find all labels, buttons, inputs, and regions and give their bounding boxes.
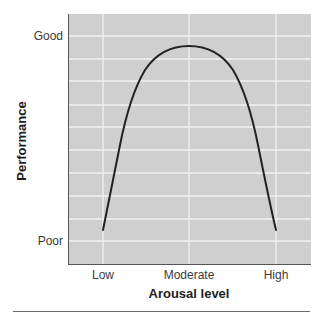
y-tick-poor: Poor (3, 234, 63, 248)
y-tick-good: Good (3, 29, 63, 43)
x-tick-high: High (236, 268, 316, 282)
y-axis-title: Performance (14, 101, 29, 180)
bottom-divider (13, 311, 310, 312)
x-axis-title: Arousal level (149, 286, 230, 301)
x-tick-low: Low (63, 268, 143, 282)
x-tick-moderate: Moderate (149, 268, 229, 282)
